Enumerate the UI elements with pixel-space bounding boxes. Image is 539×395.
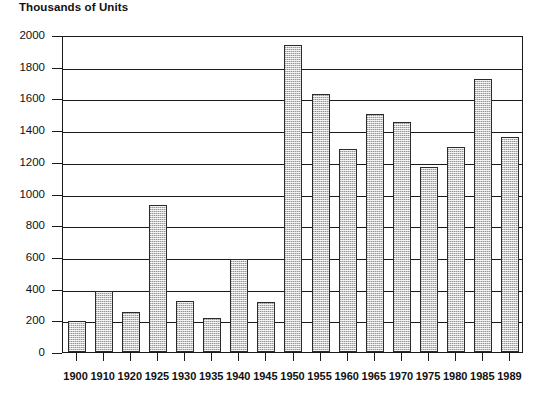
x-tick-mark-1950 xyxy=(293,353,294,361)
bar-1989 xyxy=(501,137,519,352)
x-tick-label-1955: 1955 xyxy=(307,370,331,382)
x-tick-mark-1965 xyxy=(374,353,375,361)
y-tick-label-0: 0 xyxy=(39,347,45,359)
x-tick-mark-1955 xyxy=(320,353,321,361)
y-tick-mark-200 xyxy=(52,321,62,322)
bar-1965 xyxy=(366,114,384,352)
x-tick-mark-1985 xyxy=(482,353,483,361)
bar-1935 xyxy=(203,318,221,352)
y-tick-label-1400: 1400 xyxy=(19,125,45,137)
y-tick-label-200: 200 xyxy=(26,316,45,328)
x-tick-label-1950: 1950 xyxy=(280,370,304,382)
y-tick-label-800: 800 xyxy=(26,220,45,232)
bar-1950 xyxy=(284,45,302,352)
y-tick-mark-1600 xyxy=(52,99,62,100)
x-tick-label-1970: 1970 xyxy=(389,370,413,382)
x-tick-mark-1960 xyxy=(347,353,348,361)
y-tick-mark-1400 xyxy=(52,131,62,132)
x-tick-label-1989: 1989 xyxy=(497,370,521,382)
bar-1930 xyxy=(176,301,194,353)
x-axis: 1900191019201925193019351940194519501955… xyxy=(62,353,523,395)
y-tick-label-1000: 1000 xyxy=(19,189,45,201)
x-tick-mark-1970 xyxy=(401,353,402,361)
x-tick-mark-1910 xyxy=(103,353,104,361)
x-tick-label-1975: 1975 xyxy=(416,370,440,382)
x-tick-mark-1935 xyxy=(211,353,212,361)
x-tick-mark-1945 xyxy=(265,353,266,361)
bar-1940 xyxy=(230,259,248,352)
x-tick-mark-1900 xyxy=(76,353,77,361)
x-tick-label-1920: 1920 xyxy=(118,370,142,382)
x-tick-label-1930: 1930 xyxy=(172,370,196,382)
x-tick-label-1925: 1925 xyxy=(145,370,169,382)
y-tick-mark-1000 xyxy=(52,195,62,196)
bar-1980 xyxy=(447,147,465,352)
bars-layer xyxy=(63,37,522,352)
bar-1925 xyxy=(149,205,167,352)
bar-1945 xyxy=(257,302,275,352)
x-tick-label-1940: 1940 xyxy=(226,370,250,382)
y-tick-mark-800 xyxy=(52,226,62,227)
x-tick-mark-1940 xyxy=(238,353,239,361)
y-tick-label-400: 400 xyxy=(26,284,45,296)
x-tick-mark-1920 xyxy=(130,353,131,361)
y-tick-label-1600: 1600 xyxy=(19,94,45,106)
bar-1900 xyxy=(68,321,86,352)
x-tick-label-1960: 1960 xyxy=(334,370,358,382)
y-tick-mark-1800 xyxy=(52,68,62,69)
y-tick-mark-400 xyxy=(52,290,62,291)
x-tick-label-1980: 1980 xyxy=(443,370,467,382)
bar-1985 xyxy=(474,79,492,352)
x-tick-label-1985: 1985 xyxy=(470,370,494,382)
x-tick-label-1945: 1945 xyxy=(253,370,277,382)
x-tick-label-1900: 1900 xyxy=(63,370,87,382)
y-tick-label-600: 600 xyxy=(26,252,45,264)
x-tick-mark-1930 xyxy=(184,353,185,361)
plot-area xyxy=(62,36,523,353)
x-tick-label-1965: 1965 xyxy=(362,370,386,382)
bar-1910 xyxy=(95,291,113,352)
x-tick-label-1910: 1910 xyxy=(90,370,114,382)
x-tick-mark-1975 xyxy=(428,353,429,361)
bar-1955 xyxy=(312,94,330,352)
y-tick-label-1800: 1800 xyxy=(19,62,45,74)
y-tick-label-2000: 2000 xyxy=(19,30,45,42)
bar-1920 xyxy=(122,312,140,352)
x-tick-mark-1980 xyxy=(455,353,456,361)
bar-chart: Thousands of Units 020040060080010001200… xyxy=(0,0,539,395)
y-tick-mark-1200 xyxy=(52,163,62,164)
bar-1960 xyxy=(339,149,357,352)
y-axis: 0200400600800100012001400160018002000 xyxy=(0,0,62,395)
x-tick-mark-1989 xyxy=(509,353,510,361)
bar-1970 xyxy=(393,122,411,352)
x-tick-mark-1925 xyxy=(157,353,158,361)
y-tick-mark-0 xyxy=(52,353,62,354)
y-tick-label-1200: 1200 xyxy=(19,157,45,169)
x-tick-label-1935: 1935 xyxy=(199,370,223,382)
y-tick-mark-600 xyxy=(52,258,62,259)
y-tick-mark-2000 xyxy=(52,36,62,37)
bar-1975 xyxy=(420,167,438,352)
